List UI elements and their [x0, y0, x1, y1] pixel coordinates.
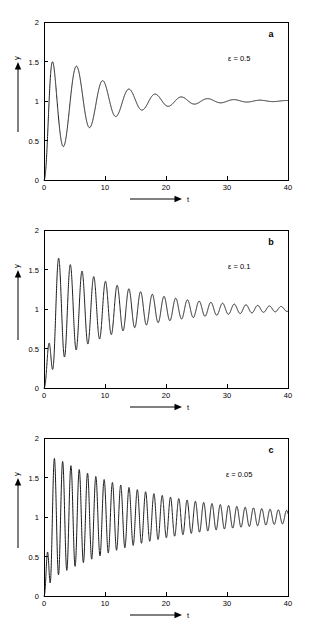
y-tick-label: 1.5: [29, 474, 39, 483]
y-tick-label: 1.5: [29, 266, 39, 275]
data-curve: [44, 458, 288, 596]
x-axis-arrowhead: [175, 612, 183, 618]
plot-frame: [44, 230, 288, 388]
plot-canvas-c: 01020304000.511.52cε = 0.05yt: [0, 416, 309, 626]
panel-letter: b: [268, 237, 274, 247]
x-tick-label: 20: [162, 599, 170, 608]
x-tick-label: 40: [284, 599, 292, 608]
x-axis-label: t: [187, 403, 190, 412]
x-tick-label: 30: [223, 183, 231, 192]
plot-canvas-b: 01020304000.511.52bε = 0.1yt: [0, 208, 309, 418]
plot-canvas-a: 01020304000.511.52aε = 0.5yt: [0, 0, 309, 210]
y-tick-label: 0.5: [29, 137, 39, 146]
y-tick-label: 1.5: [29, 58, 39, 67]
y-axis-label: y: [12, 264, 21, 268]
x-tick-label: 0: [42, 599, 46, 608]
x-tick-label: 30: [223, 599, 231, 608]
y-tick-label: 0.5: [29, 345, 39, 354]
figure-damped-oscillations: 01020304000.511.52aε = 0.5yt01020304000.…: [0, 0, 309, 631]
epsilon-label: ε = 0.1: [228, 262, 250, 271]
y-tick-label: 0: [35, 384, 39, 393]
plot-frame: [44, 22, 288, 180]
y-axis-arrowhead: [15, 478, 21, 486]
x-tick-label: 40: [284, 183, 292, 192]
x-tick-label: 0: [42, 391, 46, 400]
y-tick-label: 0: [35, 592, 39, 601]
epsilon-label: ε = 0.05: [226, 470, 253, 479]
data-curve: [44, 62, 288, 180]
plot-panel-a: 01020304000.511.52aε = 0.5yt: [0, 0, 309, 210]
panel-letter: c: [268, 445, 273, 455]
x-axis-arrowhead: [175, 196, 183, 202]
y-axis-label: y: [12, 56, 21, 60]
y-tick-label: 1: [35, 513, 39, 522]
y-tick-label: 0.5: [29, 553, 39, 562]
y-axis-label: y: [12, 472, 21, 476]
x-tick-label: 40: [284, 391, 292, 400]
epsilon-label: ε = 0.5: [228, 54, 250, 63]
x-axis-label: t: [187, 195, 190, 204]
x-tick-label: 30: [223, 391, 231, 400]
x-axis-label: t: [187, 611, 190, 620]
y-tick-label: 2: [35, 18, 39, 27]
y-tick-label: 0: [35, 176, 39, 185]
x-tick-label: 20: [162, 183, 170, 192]
y-tick-label: 1: [35, 97, 39, 106]
x-tick-label: 20: [162, 391, 170, 400]
y-tick-label: 2: [35, 434, 39, 443]
x-tick-label: 10: [101, 183, 109, 192]
y-tick-label: 2: [35, 226, 39, 235]
y-tick-label: 1: [35, 305, 39, 314]
x-axis-arrowhead: [175, 404, 183, 410]
plot-panel-b: 01020304000.511.52bε = 0.1yt: [0, 208, 309, 418]
y-axis-arrowhead: [15, 270, 21, 278]
plot-panel-c: 01020304000.511.52cε = 0.05yt: [0, 416, 309, 626]
x-tick-label: 10: [101, 391, 109, 400]
x-tick-label: 0: [42, 183, 46, 192]
data-curve: [44, 258, 288, 388]
panel-letter: a: [268, 29, 274, 39]
x-tick-label: 10: [101, 599, 109, 608]
y-axis-arrowhead: [15, 62, 21, 70]
